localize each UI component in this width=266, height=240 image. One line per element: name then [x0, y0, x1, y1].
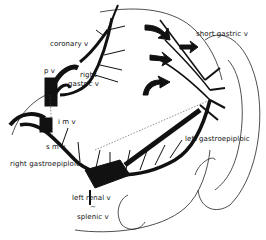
label-right-gastric-line1: right	[80, 71, 97, 79]
label-left-gastroepiploic: left gastroepiploic	[185, 135, 250, 143]
label-pv: p v	[44, 67, 55, 75]
label-smv: s m v	[46, 143, 66, 151]
label-imv: i m v	[58, 118, 76, 126]
label-left-renal-v: left renal v	[72, 194, 111, 202]
label-tilde: ~	[90, 203, 96, 211]
label-right-gastroepiploic: right gastroepiploic	[10, 160, 80, 168]
label-right-gastric-line2: gastric v	[68, 80, 99, 88]
label-short-gastric-v: short gastric v	[196, 30, 248, 38]
label-coronary-v: coronary v	[50, 40, 88, 48]
label-splenic-v: splenic v	[77, 213, 109, 221]
splenic-vein	[85, 110, 200, 205]
kidney-outline	[118, 195, 145, 229]
